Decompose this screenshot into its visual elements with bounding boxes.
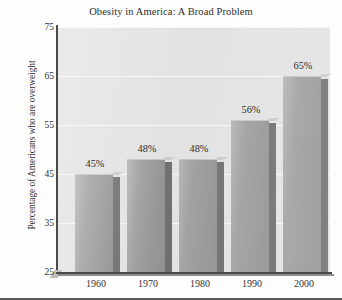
x-axis-tick-label: 2000 xyxy=(274,278,334,289)
x-axis-shadow xyxy=(58,274,334,276)
y-axis-tick-label: 65 xyxy=(14,70,54,81)
bar-face xyxy=(75,174,113,272)
x-axis-line xyxy=(56,272,332,274)
y-axis-line xyxy=(56,25,58,274)
bar-side xyxy=(113,177,120,272)
bar[interactable] xyxy=(283,76,321,272)
bar[interactable] xyxy=(231,120,269,272)
bar-value-label: 48% xyxy=(169,143,229,154)
bar[interactable] xyxy=(75,174,113,272)
bar-top xyxy=(162,157,176,160)
bar-top xyxy=(266,118,280,121)
x-axis-tick-label: 1970 xyxy=(118,278,178,289)
bar-value-label: 45% xyxy=(65,158,125,169)
bar[interactable] xyxy=(179,159,217,272)
chart-figure: Obesity in America: A Broad Problem Perc… xyxy=(0,0,342,300)
bar-face xyxy=(127,159,165,272)
y-axis-title: Percentage of Americans who are overweig… xyxy=(27,20,37,270)
y-axis-tick-label: 45 xyxy=(14,168,54,179)
bar-face xyxy=(231,120,269,272)
y-axis-tick-label: 55 xyxy=(14,119,54,130)
x-axis-tick-label: 1960 xyxy=(66,278,126,289)
bar[interactable] xyxy=(127,159,165,272)
bar-side xyxy=(165,162,172,272)
gridline xyxy=(58,27,330,28)
bar-value-label: 65% xyxy=(273,60,333,71)
bar-value-label: 48% xyxy=(117,143,177,154)
bar-side xyxy=(217,162,224,272)
y-axis-tick-label: 25 xyxy=(14,266,54,277)
bar-top xyxy=(214,157,228,160)
y-axis-tick-label: 75 xyxy=(14,21,54,32)
bar-side xyxy=(321,79,328,272)
chart-title: Obesity in America: A Broad Problem xyxy=(0,6,342,17)
y-axis-tick-label: 35 xyxy=(14,217,54,228)
bar-face xyxy=(179,159,217,272)
bar-side xyxy=(269,123,276,272)
x-axis-tick-label: 1980 xyxy=(170,278,230,289)
x-axis-tick-label: 1990 xyxy=(222,278,282,289)
bar-face xyxy=(283,76,321,272)
bar-value-label: 56% xyxy=(221,104,281,115)
